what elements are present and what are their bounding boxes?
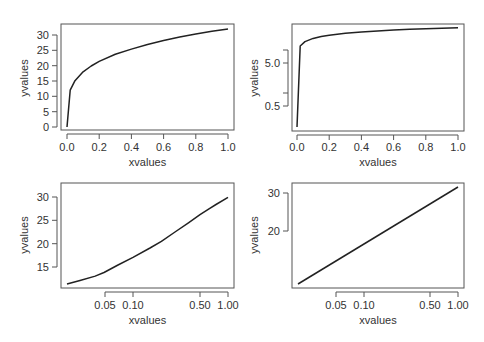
x-ticks	[67, 134, 228, 139]
panel-bottom-left: 15 20 25 30 0.05 0.10 0.50 1.00 xvalues …	[18, 183, 239, 326]
y-axis-title: yvalues	[18, 59, 30, 97]
y-tick-label: 20	[268, 225, 280, 237]
x-tick-label: 1.0	[220, 141, 235, 153]
y-axis-title: yvalues	[248, 59, 260, 97]
x-tick-label: 1.00	[217, 299, 238, 311]
panel-top-left: 0 5 10 15 20 25 30 0.0 0.2 0.4 0.6 0.8 1…	[18, 24, 236, 168]
x-tick-label: 0.0	[59, 141, 74, 153]
panel-top-right: 0.5 5.0 0.0 0.2 0.4 0.6 0.8 1.0 xvalues …	[248, 24, 466, 168]
y-ticks	[283, 193, 288, 231]
x-ticks	[336, 292, 458, 297]
panel-bottom-right: 20 30 0.05 0.10 0.50 1.00 xvalues yvalue…	[248, 183, 469, 326]
y-tick-label: 15	[37, 75, 49, 87]
y-tick-label: 10	[37, 90, 49, 102]
x-axis-title: xvalues	[129, 314, 167, 326]
y-tick-label: 20	[37, 238, 49, 250]
data-line	[298, 187, 458, 284]
x-ticks	[105, 292, 228, 297]
data-line	[297, 28, 458, 127]
y-tick-label: 15	[37, 261, 49, 273]
y-tick-label: 20	[37, 60, 49, 72]
plot-frame	[61, 24, 234, 130]
x-tick-label: 0.05	[94, 299, 115, 311]
x-axis-title: xvalues	[359, 314, 397, 326]
y-tick-label: 5	[43, 106, 49, 118]
y-tick-label: 30	[268, 187, 280, 199]
x-tick-label: 0.2	[92, 141, 107, 153]
y-axis-title: yvalues	[18, 216, 30, 254]
y-ticks	[52, 35, 57, 127]
x-tick-label: 0.05	[325, 299, 346, 311]
y-ticks	[52, 197, 57, 267]
x-tick-label: 0.4	[354, 141, 369, 153]
x-tick-label: 0.6	[386, 141, 401, 153]
figure: 0 5 10 15 20 25 30 0.0 0.2 0.4 0.6 0.8 1…	[0, 0, 484, 342]
y-tick-label: 5.0	[265, 57, 280, 69]
data-line	[67, 29, 228, 127]
x-tick-label: 0.50	[419, 299, 440, 311]
x-tick-label: 0.10	[122, 299, 143, 311]
x-tick-label: 1.00	[447, 299, 468, 311]
x-tick-label: 0.6	[156, 141, 171, 153]
y-tick-label: 25	[37, 44, 49, 56]
x-tick-label: 0.4	[124, 141, 139, 153]
y-tick-label: 30	[37, 191, 49, 203]
y-tick-label: 0	[43, 121, 49, 133]
x-tick-label: 0.2	[322, 141, 337, 153]
plot-frame	[292, 24, 464, 131]
x-tick-label: 1.0	[450, 141, 465, 153]
y-axis-title: yvalues	[248, 216, 260, 254]
y-tick-label: 0.5	[265, 100, 280, 112]
x-tick-label: 0.50	[189, 299, 210, 311]
x-tick-label: 0.8	[188, 141, 203, 153]
x-ticks	[297, 135, 458, 140]
x-axis-title: xvalues	[129, 156, 167, 168]
x-axis-title: xvalues	[359, 156, 397, 168]
y-tick-label: 25	[37, 214, 49, 226]
plot-frame	[61, 183, 234, 288]
data-line	[67, 197, 228, 284]
x-tick-label: 0.8	[418, 141, 433, 153]
x-tick-label: 0.10	[353, 299, 374, 311]
x-tick-label: 0.0	[289, 141, 304, 153]
y-tick-label: 30	[37, 29, 49, 41]
y-ticks	[283, 50, 288, 106]
